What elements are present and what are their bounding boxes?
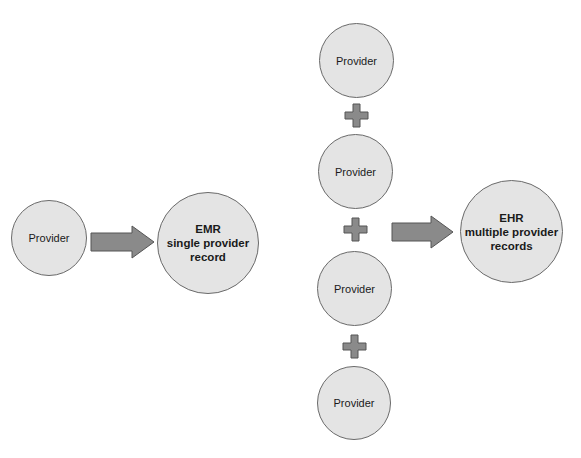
provider-label: Provider	[334, 397, 375, 409]
provider-node-left: Provider	[11, 200, 87, 276]
provider-node-4: Provider	[317, 366, 391, 440]
provider-label: Provider	[334, 283, 375, 295]
provider-node-3: Provider	[317, 251, 392, 326]
provider-label: Provider	[29, 232, 70, 244]
plus-icon	[344, 103, 369, 128]
plus-icon	[343, 217, 368, 242]
ehr-label: EHR multiple provider records	[465, 211, 558, 253]
provider-node-2: Provider	[318, 134, 393, 209]
ehr-node: EHR multiple provider records	[460, 180, 563, 283]
emr-node: EMR single provider record	[157, 192, 259, 294]
provider-node-1: Provider	[319, 23, 394, 98]
plus-icon	[342, 334, 367, 359]
provider-label: Provider	[335, 166, 376, 178]
right-arrow-icon	[391, 215, 455, 249]
provider-label: Provider	[336, 55, 377, 67]
emr-label: EMR single provider record	[167, 222, 249, 264]
right-arrow-icon	[90, 225, 156, 259]
